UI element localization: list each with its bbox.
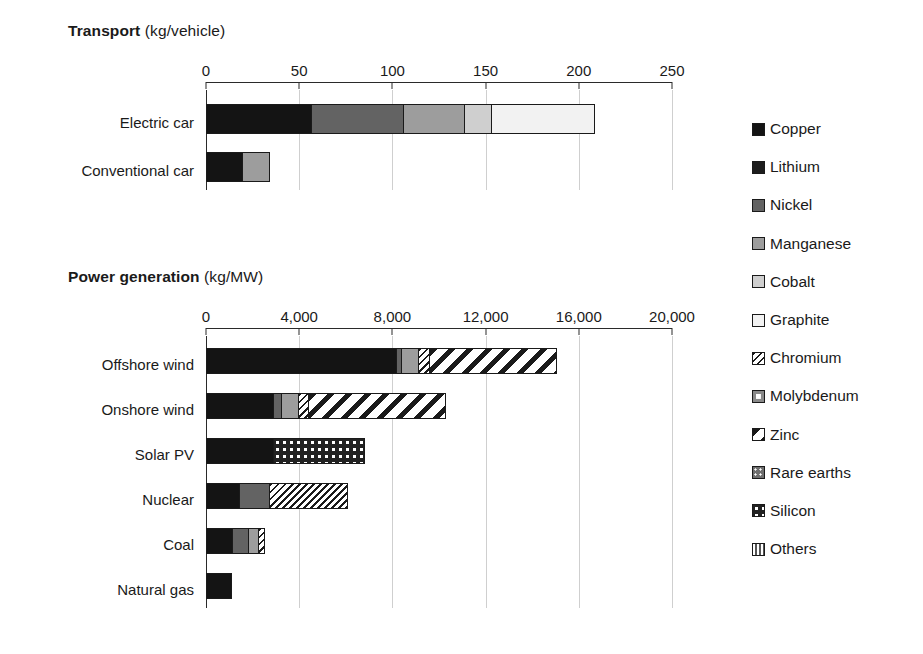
legend-item-copper[interactable]: Copper xyxy=(752,110,917,148)
stacked-bar-onshore-wind[interactable] xyxy=(206,393,450,419)
legend-label: Lithium xyxy=(770,158,820,176)
legend-swatch-manganese-icon xyxy=(752,237,765,250)
stacked-bar-nuclear[interactable] xyxy=(206,483,350,509)
bar-row: Onshore wind xyxy=(206,393,672,419)
transport-x-axis-tick-labels: 050100150200250 xyxy=(206,62,672,82)
power-generation-gridline-2 xyxy=(392,336,393,608)
power-generation-gridline-5 xyxy=(672,336,673,608)
power-generation-axis-baseline xyxy=(206,328,672,329)
power-generation-gridline-1 xyxy=(299,336,300,608)
bar-segment-copper xyxy=(206,393,274,419)
bar-segment-manganese xyxy=(401,348,419,374)
bar-segment-copper xyxy=(206,483,240,509)
bar-segment-manganese xyxy=(281,393,299,419)
power-generation-tick-label-2: 8,000 xyxy=(374,308,412,325)
panel-power-generation: Power generation (kg/MW) 04,0008,00012,0… xyxy=(68,268,678,608)
legend-swatch-lithium-icon xyxy=(752,161,765,174)
legend-item-rare-earths[interactable]: Rare earths xyxy=(752,454,917,492)
legend-label: Zinc xyxy=(770,426,799,444)
power-generation-tick-label-5: 20,000 xyxy=(649,308,695,325)
legend-label: Rare earths xyxy=(770,464,851,482)
legend-label: Others xyxy=(770,540,817,558)
power-generation-tick-label-1: 4,000 xyxy=(280,308,318,325)
legend-swatch-zinc-icon xyxy=(752,428,765,441)
power-generation-tick-mark-1 xyxy=(299,328,300,335)
legend-item-nickel[interactable]: Nickel xyxy=(752,186,917,224)
bar-row: Offshore wind xyxy=(206,348,672,374)
legend-swatch-copper-icon xyxy=(752,123,765,136)
category-label-offshore-wind: Offshore wind xyxy=(102,357,194,372)
power-generation-tick-label-0: 0 xyxy=(202,308,210,325)
legend-label: Copper xyxy=(770,120,821,138)
legend-label: Molybdenum xyxy=(770,387,859,405)
stacked-bar-conventional-car[interactable] xyxy=(206,152,271,182)
bar-segment-copper xyxy=(206,104,312,134)
stacked-bar-offshore-wind[interactable] xyxy=(206,348,561,374)
legend-swatch-molybdenum-icon xyxy=(752,390,765,403)
transport-tick-mark-2 xyxy=(392,82,393,89)
bar-row: Coal xyxy=(206,528,672,554)
legend-label: Manganese xyxy=(770,235,851,253)
transport-tick-label-0: 0 xyxy=(202,62,210,79)
category-label-onshore-wind: Onshore wind xyxy=(101,402,194,417)
bar-segment-copper xyxy=(206,438,274,464)
power-generation-tick-mark-4 xyxy=(578,328,579,335)
legend-item-molybdenum[interactable]: Molybdenum xyxy=(752,377,917,415)
transport-tick-label-1: 50 xyxy=(291,62,308,79)
bar-row: Nuclear xyxy=(206,483,672,509)
transport-plot-area: Electric carConventional car xyxy=(206,90,672,190)
legend-item-zinc[interactable]: Zinc xyxy=(752,416,917,454)
legend-item-lithium[interactable]: Lithium xyxy=(752,148,917,186)
bar-segment-zinc xyxy=(429,348,557,374)
legend-item-silicon[interactable]: Silicon xyxy=(752,492,917,530)
legend-swatch-silicon-icon xyxy=(752,504,765,517)
power-generation-tick-mark-0 xyxy=(206,328,207,335)
power-plot-area: Offshore windOnshore windSolar PVNuclear… xyxy=(206,336,672,608)
bar-segment-chromium xyxy=(258,528,265,554)
panel-transport: Transport (kg/vehicle) 050100150200250 E… xyxy=(68,22,678,190)
legend-item-graphite[interactable]: Graphite xyxy=(752,301,917,339)
power-generation-gridline-4 xyxy=(579,336,580,608)
stacked-bar-electric-car[interactable] xyxy=(206,104,599,134)
legend-item-others[interactable]: Others xyxy=(752,530,917,568)
transport-tick-mark-5 xyxy=(672,82,673,89)
power-x-axis-tick-labels: 04,0008,00012,00016,00020,000 xyxy=(206,308,672,328)
power-generation-tick-mark-3 xyxy=(485,328,486,335)
stacked-bar-solar-pv[interactable] xyxy=(206,438,366,464)
bar-row: Electric car xyxy=(206,104,672,134)
legend-item-cobalt[interactable]: Cobalt xyxy=(752,263,917,301)
transport-panel-title: Transport (kg/vehicle) xyxy=(68,22,678,40)
legend-label: Cobalt xyxy=(770,273,815,291)
power-x-axis-line xyxy=(206,328,672,336)
legend-swatch-rare-earths-icon xyxy=(752,466,765,479)
legend-item-manganese[interactable]: Manganese xyxy=(752,225,917,263)
stacked-bar-natural-gas[interactable] xyxy=(206,573,232,599)
bar-segment-copper xyxy=(206,152,243,182)
category-label-nuclear: Nuclear xyxy=(142,492,194,507)
bar-row: Solar PV xyxy=(206,438,672,464)
power-generation-value-axis xyxy=(206,336,207,608)
transport-unit-text: (kg/vehicle) xyxy=(145,22,225,39)
chart-legend: CopperLithiumNickelManganeseCobaltGraphi… xyxy=(752,110,917,568)
power-generation-tick-label-4: 16,000 xyxy=(556,308,602,325)
legend-item-chromium[interactable]: Chromium xyxy=(752,339,917,377)
transport-axis-baseline xyxy=(206,82,672,83)
bar-segment-copper xyxy=(206,348,397,374)
transport-tick-mark-4 xyxy=(578,82,579,89)
power-generation-tick-label-3: 12,000 xyxy=(463,308,509,325)
bar-segment-nickel xyxy=(239,483,269,509)
transport-tick-label-5: 250 xyxy=(659,62,684,79)
power-generation-tick-mark-5 xyxy=(672,328,673,335)
category-label-electric-car: Electric car xyxy=(120,115,194,130)
category-label-coal: Coal xyxy=(163,537,194,552)
bar-segment-nickel xyxy=(232,528,249,554)
bar-segment-graphite xyxy=(491,104,595,134)
bar-segment-manganese xyxy=(403,104,465,134)
bar-row: Natural gas xyxy=(206,573,672,599)
stacked-bar-coal[interactable] xyxy=(206,528,268,554)
transport-tick-mark-1 xyxy=(299,82,300,89)
bar-segment-nickel xyxy=(311,104,404,134)
legend-label: Silicon xyxy=(770,502,816,520)
legend-swatch-graphite-icon xyxy=(752,314,765,327)
bar-segment-manganese xyxy=(242,152,270,182)
